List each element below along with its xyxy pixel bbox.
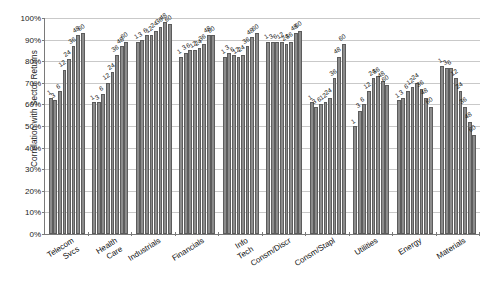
bar-item[interactable]: 60 (211, 18, 216, 234)
x-axis-category-label: HealthCare (95, 236, 125, 264)
bar[interactable] (255, 33, 259, 234)
bar[interactable] (298, 31, 302, 234)
bar-group: 1361224364860 (266, 18, 303, 234)
bar-value-label: 1 (437, 56, 444, 64)
bar-group: 1361224364860 (309, 18, 346, 234)
x-axis-category-label: Consm/Discr (249, 236, 293, 268)
y-axis-tick-label: 70% (1, 78, 41, 87)
x-axis-tick-mark (131, 232, 132, 236)
bar-group: 1361224364860 (48, 18, 85, 234)
x-axis-tick-mark (436, 232, 437, 236)
bar[interactable] (211, 35, 215, 234)
y-axis-tick-label: 50% (1, 122, 41, 131)
bar-group: 1361224364860 (222, 18, 259, 234)
bar-group: 1361224364860 (396, 18, 433, 234)
x-axis-category-label: Materials (435, 236, 468, 261)
bar[interactable] (472, 135, 476, 234)
y-axis-tick-label: 0% (1, 230, 41, 239)
bar-group: 1361224364860 (353, 18, 390, 234)
bar-value-label: 1 (350, 117, 357, 125)
y-axis-tick-label: 20% (1, 186, 41, 195)
x-axis-tick-mark (392, 232, 393, 236)
bar-chart: Correlation with Sector Returns 0%10%20%… (0, 0, 488, 293)
bar-value-label: 1 (393, 91, 400, 99)
bar-group: 1361224364860 (179, 18, 216, 234)
y-axis-tick-label: 10% (1, 208, 41, 217)
bar[interactable] (385, 85, 389, 234)
bar-value-label: 1 (306, 93, 313, 101)
bar-value-label: 1 (176, 48, 183, 56)
y-axis-tick-label: 30% (1, 165, 41, 174)
bar[interactable] (429, 107, 433, 234)
bar-item[interactable]: 60 (80, 18, 85, 234)
x-axis-tick-mark (88, 232, 89, 236)
bar-groups: 1361224364860136122436486013612243648601… (45, 18, 480, 234)
bar[interactable] (342, 44, 346, 234)
x-axis-category-label: Utilities (353, 236, 380, 258)
bar[interactable] (168, 24, 172, 234)
bar-value-label: 1 (263, 32, 270, 40)
y-axis-tick-label: 90% (1, 35, 41, 44)
bar-item[interactable]: 60 (472, 18, 477, 234)
bar[interactable] (124, 42, 128, 234)
bar-value-label: 1 (89, 93, 96, 101)
bar-group: 1361224364860 (135, 18, 172, 234)
bar-item[interactable]: 60 (385, 18, 390, 234)
plot-area: 1361224364860136122436486013612243648601… (44, 18, 480, 235)
bar-item[interactable]: 60 (124, 18, 129, 234)
x-axis-category-label: TelecomSvcs (45, 236, 80, 268)
y-axis-tick-label: 40% (1, 143, 41, 152)
x-axis-tick-mark (262, 232, 263, 236)
y-axis-tick-label: 60% (1, 100, 41, 109)
x-axis-category-label: Industrials (127, 236, 163, 263)
bar-item[interactable]: 60 (254, 18, 259, 234)
x-axis-tick-mark (305, 232, 306, 236)
y-axis-tick-label: 100% (1, 14, 41, 23)
y-axis-tick-label: 80% (1, 57, 41, 66)
x-axis-category-label: Financials (171, 236, 207, 263)
x-axis-category-label: Consm/Stapl (293, 236, 337, 268)
bar-item[interactable]: 60 (167, 18, 172, 234)
x-axis-tick-mark (175, 232, 176, 236)
y-axis-tick-mark (42, 234, 45, 235)
bar-item[interactable]: 60 (298, 18, 303, 234)
bar-item[interactable]: 60 (341, 18, 346, 234)
bar-item[interactable]: 60 (428, 18, 433, 234)
x-axis-tick-mark (479, 232, 480, 236)
bar-value-label: 1 (45, 89, 52, 97)
bar-group: 1361224364860 (440, 18, 477, 234)
bar-value-label: 1 (219, 48, 226, 56)
x-axis-tick-mark (218, 232, 219, 236)
x-axis-category-label: Energy (397, 236, 424, 257)
x-axis-category-labels: TelecomSvcsHealthCareIndustrialsFinancia… (44, 236, 480, 293)
bar-group: 1361224364860 (92, 18, 129, 234)
x-axis-tick-mark (349, 232, 350, 236)
bar[interactable] (81, 33, 85, 234)
bar-value-label: 1 (132, 32, 139, 40)
